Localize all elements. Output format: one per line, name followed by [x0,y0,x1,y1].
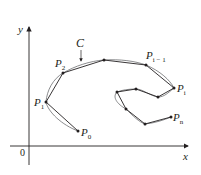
point-p1 [45,101,48,104]
diagram-svg: y x 0 C P0 P1 P2 Pi − 1 Pi [0,0,201,175]
point-p8 [116,91,119,94]
point-p3 [103,59,106,62]
label-pi: Pi [176,82,186,97]
curve-label: C [76,36,85,50]
point-pi [173,87,176,90]
x-axis-label: x [182,150,188,162]
point-p0 [77,130,80,133]
label-pi-1: Pi − 1 [145,49,166,64]
point-pi-1 [145,64,148,67]
point-p10 [144,123,147,126]
point-p9 [125,108,128,111]
label-p2: P2 [54,57,66,72]
label-p1: P1 [33,96,45,111]
point-p7 [135,88,138,91]
label-pn: Pn [172,111,184,126]
point-p6 [157,96,160,99]
y-axis-label: y [17,23,23,35]
origin-label: 0 [20,147,25,158]
diagram-canvas: y x 0 C P0 P1 P2 Pi − 1 Pi [0,0,201,175]
label-p0: P0 [80,126,92,141]
